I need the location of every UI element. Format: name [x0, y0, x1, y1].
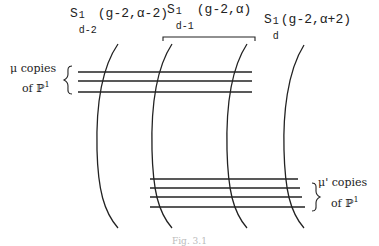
label-bracket [163, 37, 255, 41]
label-sub: d-1 [176, 21, 194, 32]
label-sub: d-2 [79, 25, 97, 36]
upper-brace-icon [64, 66, 72, 94]
upper-group-label-line1: μ copies [10, 62, 56, 75]
label-prefix: of [22, 82, 36, 95]
figure-caption: Fig. 3.1 [172, 236, 207, 246]
label-base: S [167, 2, 175, 17]
diagram-canvas [0, 0, 379, 246]
label-base: S [264, 12, 272, 27]
lower-group-label-line2: of ℙ1 [331, 195, 359, 210]
label-s-d-minus-1: S1d-1(g-2,α) [167, 2, 251, 17]
label-s-d: S1d(g-2,α+2) [264, 12, 351, 27]
upper-group-label-line2: of ℙ1 [22, 80, 50, 95]
label-prefix: of [331, 197, 345, 210]
label-sup: 1 [353, 195, 358, 204]
lower-group-label-line1: μ' copies [318, 176, 367, 189]
label-sup: 1 [273, 16, 279, 27]
label-s-d-minus-2: S1d-2(g-2,α-2) [70, 6, 168, 21]
label-sub: d [273, 31, 279, 42]
label-sup: 1 [79, 10, 85, 21]
label-args: (g-2,α) [197, 2, 252, 17]
label-sup: 1 [44, 80, 49, 89]
label-base: S [70, 6, 78, 21]
label-args: (g-2,α+2) [281, 12, 351, 27]
curve-4 [284, 45, 304, 228]
label-args: (g-2,α-2) [98, 6, 168, 21]
label-sup: 1 [176, 6, 182, 17]
